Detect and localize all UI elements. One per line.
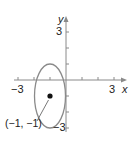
center-point-label: (−1, −1) xyxy=(5,118,42,129)
y-max-label: 3 xyxy=(56,26,62,37)
y-axis-label: y xyxy=(58,14,64,25)
y-min-label: −3 xyxy=(53,122,66,133)
center-point xyxy=(47,93,52,98)
y-axis-arrow-icon xyxy=(64,16,69,22)
x-min-label: −3 xyxy=(11,84,24,95)
x-axis-arrow-icon xyxy=(121,78,127,83)
x-max-label: 3 xyxy=(109,84,115,95)
x-axis-label: x xyxy=(122,84,128,95)
